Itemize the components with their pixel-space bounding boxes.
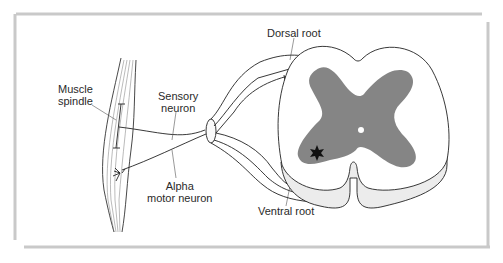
label-ventral-root: Ventral root [258,205,314,217]
label-line: motor neuron [147,192,212,204]
central-canal [358,127,364,133]
spinal-cord [278,46,449,208]
label-line: Alpha [147,180,212,192]
muscle [103,58,136,232]
label-line: Sensory [158,90,198,102]
label-line: Muscle [58,83,93,95]
label-dorsal-root: Dorsal root [267,27,321,39]
reflex-arc-diagram [0,0,503,263]
label-line: spindle [58,95,93,107]
label-alpha-motor-neuron: Alpha motor neuron [147,180,212,204]
label-line: neuron [158,102,198,114]
label-sensory-neuron: Sensory neuron [158,90,198,114]
label-muscle-spindle: Muscle spindle [58,83,93,107]
